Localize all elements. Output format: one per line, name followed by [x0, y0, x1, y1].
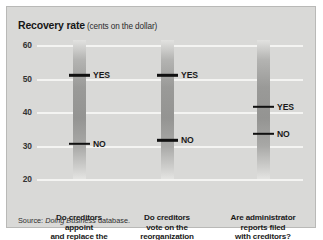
category-label-line: vote on the [124, 223, 210, 233]
chart-panel: Recovery rate(cents on the dollar) 60504… [6, 6, 316, 228]
marker-label-yes-bar-2: YES [181, 70, 198, 80]
marker-label-no-bar-1: NO [93, 139, 106, 149]
category-label-line: Do creditors [124, 213, 210, 223]
y-tick-label-20: 20 [23, 174, 32, 184]
y-tick-label-60: 60 [23, 40, 32, 50]
plot-area: 6050403020 YESNOYESNOYESNO Do creditorsa… [37, 37, 315, 179]
marker-label-no-bar-3: NO [277, 129, 290, 139]
y-tick-label-30: 30 [23, 141, 32, 151]
marker-no-bar-3 [253, 133, 274, 135]
category-label-line: reorganization [124, 232, 210, 235]
category-label-line: and replace the [31, 232, 127, 235]
gridline-20 [37, 179, 303, 181]
marker-yes-bar-3 [253, 106, 274, 108]
source-suffix: database. [98, 216, 130, 225]
bar-2 [161, 40, 174, 179]
marker-no-bar-2 [157, 139, 178, 141]
marker-label-no-bar-2: NO [181, 135, 194, 145]
category-label-line: Are administrator [215, 213, 311, 223]
marker-no-bar-1 [69, 143, 90, 145]
chart-title-main: Recovery rate [18, 19, 85, 31]
marker-label-yes-bar-3: YES [277, 102, 294, 112]
y-tick-label-50: 50 [23, 74, 32, 84]
chart-title-units: (cents on the dollar) [87, 22, 157, 31]
source-work: Doing Business [45, 216, 96, 225]
bar-1 [73, 40, 86, 179]
source-prefix: Source: [18, 216, 43, 225]
category-label-2: Do creditorsvote on thereorganizationpla… [124, 213, 210, 235]
marker-yes-bar-1 [69, 74, 90, 76]
category-label-line: with creditors? [215, 232, 311, 235]
source-note: Source: Doing Business database. [18, 216, 130, 225]
bar-3 [257, 40, 270, 179]
recovery-rate-figure: Recovery rate(cents on the dollar) 60504… [0, 0, 323, 235]
marker-label-yes-bar-1: YES [93, 70, 110, 80]
category-label-3: Are administratorreports filedwith credi… [215, 213, 311, 235]
y-tick-label-40: 40 [23, 107, 32, 117]
marker-yes-bar-2 [157, 74, 178, 76]
chart-title: Recovery rate(cents on the dollar) [18, 16, 157, 32]
category-label-line: reports filed [215, 223, 311, 233]
